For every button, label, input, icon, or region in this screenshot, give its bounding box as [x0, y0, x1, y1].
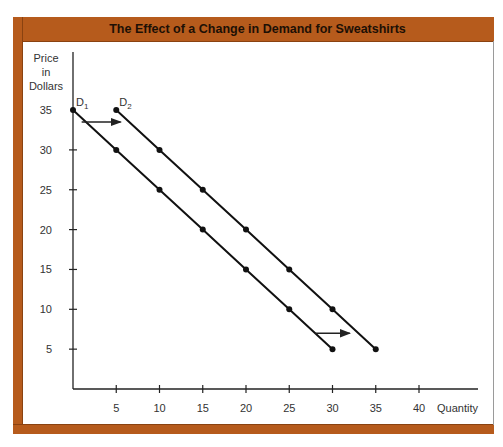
y-axis-label-line: Dollars — [29, 80, 64, 92]
y-tick-label: 15 — [40, 263, 52, 275]
y-axis-label-line: in — [42, 66, 51, 78]
plot-area: PriceinDollars 5101520253035 51015202530… — [0, 0, 503, 447]
data-point — [330, 346, 336, 352]
data-point — [157, 147, 163, 153]
curve-d2: D2 — [113, 96, 379, 352]
curve-label-d1: D1 — [76, 96, 89, 111]
y-tick-label: 25 — [40, 184, 52, 196]
x-axis-label: Quantity — [437, 402, 478, 414]
x-tick-label: 10 — [153, 402, 165, 414]
shift-arrows — [82, 122, 350, 333]
x-tick-label: 5 — [113, 402, 119, 414]
y-tick-label: 5 — [46, 343, 52, 355]
data-point — [157, 187, 163, 193]
data-point — [113, 147, 119, 153]
y-tick-label: 10 — [40, 303, 52, 315]
demand-curves: D1D2 — [70, 96, 379, 352]
x-tick-label: 15 — [197, 402, 209, 414]
x-tick-label: 35 — [370, 402, 382, 414]
x-tick-label: 20 — [240, 402, 252, 414]
y-tick-label: 30 — [40, 144, 52, 156]
axes — [73, 52, 478, 389]
data-point — [286, 266, 292, 272]
curve-d1: D1 — [70, 96, 336, 352]
x-tick-label: 30 — [326, 402, 338, 414]
y-axis-label-line: Price — [33, 52, 58, 64]
y-tick-label: 35 — [40, 104, 52, 116]
x-tick-label: 25 — [283, 402, 295, 414]
data-point — [286, 306, 292, 312]
y-axis-label: PriceinDollars — [29, 52, 64, 92]
data-point — [243, 266, 249, 272]
data-point — [373, 346, 379, 352]
data-point — [200, 227, 206, 233]
data-point — [243, 227, 249, 233]
y-tick-label: 20 — [40, 224, 52, 236]
data-point — [330, 306, 336, 312]
data-point — [200, 187, 206, 193]
x-tick-label: 40 — [413, 402, 425, 414]
y-axis-ticks: 5101520253035 — [40, 104, 77, 355]
curve-label-d2: D2 — [119, 96, 132, 111]
